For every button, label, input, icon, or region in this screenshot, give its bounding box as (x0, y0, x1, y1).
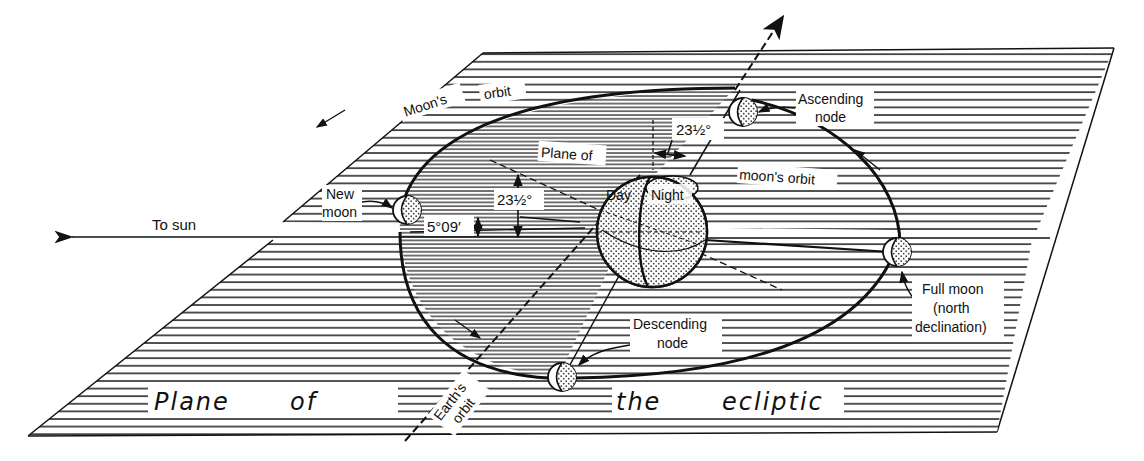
ecliptic-label-of: of (290, 388, 319, 416)
full-moon-label-2: (north (933, 300, 970, 316)
full-moon-label-1: Full moon (922, 281, 983, 297)
angle-23-5-inner: 23½° (497, 191, 532, 208)
descending-node-label-2: node (657, 335, 688, 351)
new-moon (393, 196, 421, 224)
to-sun-label: To sun (152, 216, 196, 233)
descending-node-moon (548, 363, 576, 391)
ecliptic-label-plane: Plane (154, 388, 230, 416)
new-moon-label-2: moon (322, 204, 357, 220)
ecliptic-diagram: To sun New moon Moon's orbit Plane of 23… (0, 0, 1144, 461)
new-moon-label-1: New (326, 186, 355, 202)
angle-23-5-top: 23½° (676, 121, 711, 138)
ascending-node-label-2: node (815, 109, 846, 125)
ecliptic-label-ecliptic: ecliptic (722, 388, 824, 416)
day-label: Day (606, 187, 631, 203)
full-moon-label-3: declination) (915, 319, 987, 335)
angle-5-09: 5°09′ (427, 218, 461, 235)
ascending-node-label-1: Ascending (798, 91, 863, 107)
ascending-node-moon (729, 98, 757, 126)
full-moon (883, 238, 911, 266)
night-label: Night (651, 187, 684, 203)
descending-node-label-1: Descending (633, 316, 707, 332)
ecliptic-label-the: the (616, 388, 661, 416)
